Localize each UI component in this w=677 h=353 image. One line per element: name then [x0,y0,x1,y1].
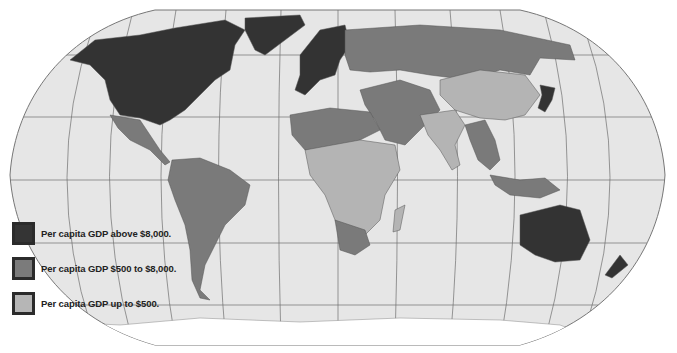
legend-label-low: Per capita GDP up to $500. [41,298,159,309]
legend-label-mid: Per capita GDP $500 to $8,000. [41,263,176,274]
legend-swatch-high [12,222,35,245]
legend-item-high: Per capita GDP above $8,000. [12,222,171,245]
legend-label-high: Per capita GDP above $8,000. [41,228,171,239]
legend-item-mid: Per capita GDP $500 to $8,000. [12,257,176,280]
legend-item-low: Per capita GDP up to $500. [12,292,159,315]
antarctica [0,318,677,353]
legend-swatch-mid [12,257,35,280]
legend-swatch-low [12,292,35,315]
